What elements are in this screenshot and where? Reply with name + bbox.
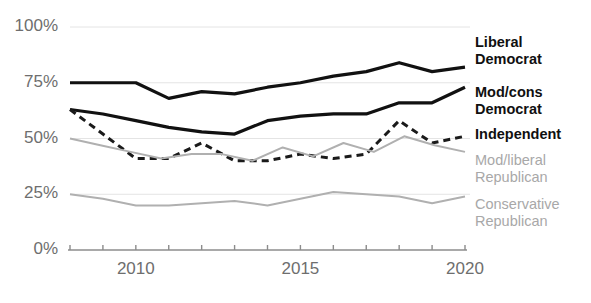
legend-item-label-line: Republican: [475, 213, 560, 230]
legend-item-label-line: Republican: [475, 169, 548, 186]
legend-item-mod-cons-democrat: Mod/consDemocrat: [475, 84, 543, 117]
legend-item-label-line: Mod/cons: [475, 84, 543, 101]
y-axis-tick-label: 75%: [24, 72, 58, 92]
legend-item-label-line: Conservative: [475, 196, 560, 213]
legend-item-label-line: Democrat: [475, 51, 542, 68]
x-axis-tick-label: 2010: [117, 259, 155, 279]
y-axis-tick-label: 0%: [33, 239, 58, 259]
legend-item-independent: Independent: [475, 126, 561, 143]
y-axis-tick-label: 50%: [24, 128, 58, 148]
x-axis-tick-label: 2015: [281, 259, 319, 279]
legend-item-conservative-republican: ConservativeRepublican: [475, 196, 560, 229]
legend-item-mod-liberal-republican: Mod/liberalRepublican: [475, 152, 548, 185]
legend-item-label-line: Mod/liberal: [475, 152, 548, 169]
x-axis-tick-label: 2020: [446, 259, 484, 279]
legend-item-label-line: Liberal: [475, 34, 542, 51]
legend-item-label-line: Democrat: [475, 101, 543, 118]
series-line-liberal-democrat: [70, 63, 465, 99]
y-axis-tick-label: 25%: [24, 183, 58, 203]
series-line-mod-liberal-republican: [70, 136, 465, 161]
chart-container: 0%25%50%75%100% 201020152020 LiberalDemo…: [0, 0, 591, 303]
legend-item-liberal-democrat: LiberalDemocrat: [475, 34, 542, 67]
y-axis-tick-label: 100%: [15, 16, 58, 36]
legend-item-label-line: Independent: [475, 126, 561, 143]
series-line-mod-cons-democrat: [70, 87, 465, 134]
